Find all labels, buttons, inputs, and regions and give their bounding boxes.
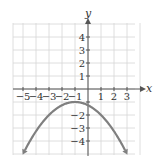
x-axis-label: x [146,82,153,95]
y-tick-label: −4 [70,136,85,147]
y-tick-label: 2 [79,58,85,69]
y-tick-label: −2 [70,110,85,121]
y-tick-label: 4 [79,32,85,43]
x-tick-label: −1 [68,91,83,102]
x-tick-label: 3 [124,91,130,102]
y-tick-label: 3 [79,45,85,56]
y-axis-label: y [84,7,92,20]
y-tick-label: −3 [70,123,85,134]
x-tick-label: 2 [111,91,117,102]
parabola-chart: −5−4−3−2−11234321−2−3−4 x y [0,0,157,164]
y-tick-label: 1 [79,71,85,82]
x-tick-label: 1 [98,91,104,102]
